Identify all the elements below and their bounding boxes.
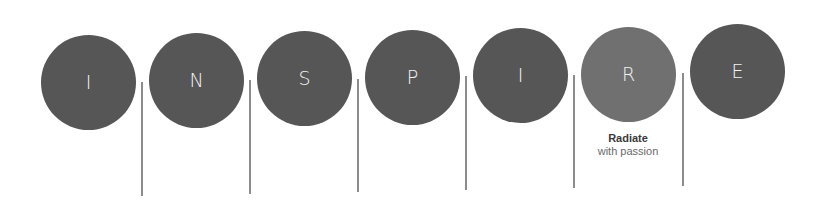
letter-label: S (298, 69, 310, 88)
letter-label: P (407, 68, 418, 87)
divider-line-6 (682, 73, 684, 186)
caption-subtitle: with passion (573, 145, 683, 158)
divider-line-1 (141, 82, 143, 196)
letter-label: E (731, 62, 743, 81)
letter-circle-n: N (149, 33, 244, 128)
caption-title: Radiate (573, 132, 683, 145)
letter-circle-i-2: I (473, 28, 568, 123)
letter-caption-r: Radiate with passion (573, 132, 683, 157)
letter-circle-p: P (365, 30, 460, 125)
divider-line-2 (249, 80, 251, 194)
letter-label: R (622, 65, 635, 84)
letter-label: I (518, 66, 524, 85)
divider-line-4 (465, 76, 467, 190)
letter-circle-e: E (690, 24, 785, 119)
inspire-acronym-diagram: I N S P I R E Radiate with passion (0, 0, 825, 202)
letter-circle-s: S (257, 31, 352, 126)
letter-label: N (189, 71, 203, 90)
letter-label: I (86, 73, 92, 92)
letter-circle-r-highlighted: R (581, 27, 676, 122)
divider-line-3 (357, 79, 359, 192)
letter-circle-i-1: I (41, 35, 136, 130)
